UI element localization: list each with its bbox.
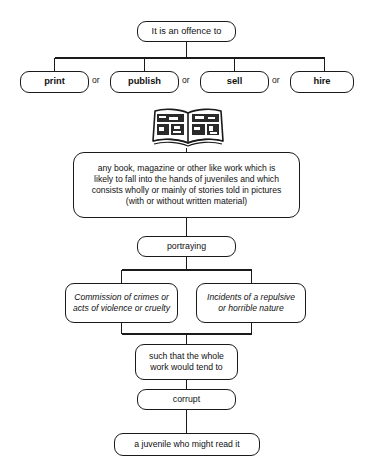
node-corrupt-label: corrupt (168, 394, 205, 405)
node-definition-label: any book, magazine or other like work wh… (87, 163, 287, 207)
node-verb-print: print (20, 71, 89, 93)
open-comic-book-icon (150, 107, 226, 149)
node-branch-repulsive: Incidents of a repulsive or horrible nat… (196, 283, 306, 323)
node-branch-crimes-label: Commission of crimes or acts of violence… (68, 292, 175, 314)
node-verb-hire: hire (290, 71, 354, 93)
node-verb-hire-label: hire (308, 76, 335, 88)
node-branch-repulsive-label: Incidents of a repulsive or horrible nat… (202, 292, 300, 314)
node-verb-sell: sell (200, 71, 269, 93)
node-target-juvenile: a juvenile who might read it (114, 433, 260, 456)
node-offence-title: It is an offence to (137, 21, 236, 42)
node-corrupt: corrupt (137, 389, 236, 410)
node-verb-publish-label: publish (123, 76, 166, 88)
offence-flowchart: It is an offence to print or publish or … (0, 0, 373, 473)
separator-or-2: or (182, 75, 190, 85)
node-such-that: such that the whole work would tend to (135, 344, 238, 380)
node-such-that-label: such that the whole work would tend to (144, 351, 229, 373)
node-definition: any book, magazine or other like work wh… (73, 152, 300, 218)
node-target-juvenile-label: a juvenile who might read it (129, 439, 244, 450)
node-verb-sell-label: sell (222, 76, 248, 88)
node-verb-publish: publish (110, 71, 179, 93)
node-offence-title-label: It is an offence to (147, 26, 227, 38)
separator-or-1: or (92, 75, 100, 85)
node-verb-print-label: print (39, 76, 70, 88)
node-branch-crimes: Commission of crimes or acts of violence… (65, 283, 178, 323)
separator-or-3: or (272, 75, 280, 85)
node-portraying-label: portraying (162, 241, 211, 252)
node-portraying: portraying (137, 236, 236, 257)
